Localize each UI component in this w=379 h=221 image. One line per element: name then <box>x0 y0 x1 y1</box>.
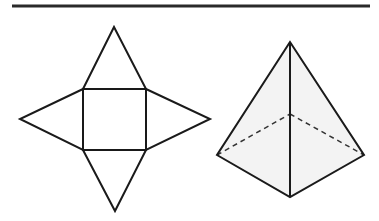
visible-edges <box>217 42 364 197</box>
net-right-triangle <box>146 89 210 150</box>
pyramid-net <box>20 27 210 211</box>
net-top-triangle <box>83 27 146 89</box>
net-bottom-triangle <box>83 150 146 211</box>
pyramid-net-diagram <box>0 0 379 221</box>
pyramid-face-left <box>217 42 290 197</box>
net-square-base <box>83 89 146 150</box>
net-left-triangle <box>20 89 83 150</box>
square-pyramid-3d <box>217 42 364 197</box>
